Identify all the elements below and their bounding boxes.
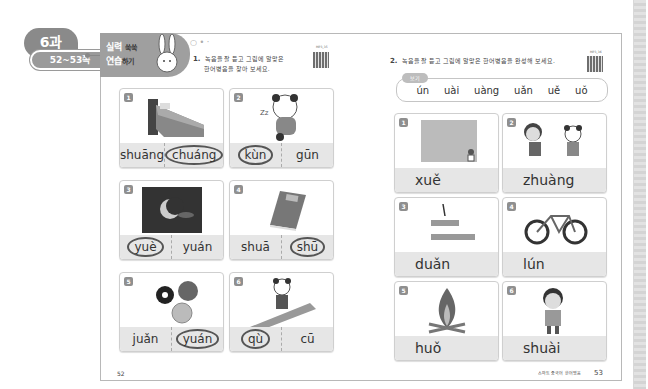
item-number: 4 (234, 185, 243, 194)
exercise1-number: 1. (193, 55, 201, 63)
fire-picture (395, 282, 498, 338)
exercise1-instruction: 1.녹음을 잘 듣고 그림에 알맞은 한어병음을 찾아 보세요. (193, 54, 284, 74)
exercise1-card-6: 6 qù cū (229, 272, 334, 352)
item-number: 5 (124, 277, 133, 286)
option-a-circled[interactable]: kùn (230, 143, 281, 167)
exercise2-card-1: 1 xuě (394, 113, 499, 193)
option-text: juǎn (133, 332, 159, 346)
exercise2-card-6: 6 shuài (502, 281, 607, 361)
example-option: uě (548, 85, 561, 96)
example-label: 보기 (402, 73, 428, 83)
qr-label-2: MP3_36 (590, 50, 602, 54)
bump-picture (503, 114, 606, 170)
example-option: uǒ (575, 85, 587, 96)
book-binding (633, 0, 646, 389)
exercise2-number: 2. (390, 57, 398, 65)
option-text: shū (290, 237, 325, 257)
qr-code-icon[interactable] (313, 52, 329, 68)
exercise2-card-4: 4 lún (502, 197, 607, 277)
bed-picture (120, 89, 223, 145)
example-box: ún uài uàng uǎn uě uǒ (396, 78, 608, 102)
lesson-pages: 52~53쪽 (30, 50, 110, 70)
answer-text: huǒ (415, 340, 441, 356)
section-title-line2: 연습 (106, 56, 122, 66)
answer-text: shuài (523, 340, 561, 356)
option-a-circled[interactable]: qù (230, 327, 281, 351)
answer-field[interactable]: lún (503, 252, 606, 276)
item-number: 1 (124, 93, 133, 102)
exercise1-card-1: 1 shuāng chuáng (119, 88, 224, 168)
left-page-number: 52 (117, 370, 125, 377)
answer-field[interactable]: xuě (395, 168, 498, 192)
example-option: uǎn (514, 85, 533, 96)
option-text: yuè (127, 237, 163, 257)
qr-code-icon[interactable] (587, 56, 603, 72)
exercise1-card-2: Zz 2 kùn gūn (229, 88, 334, 168)
answer-field[interactable]: zhuàng (503, 168, 606, 192)
bicycle-picture (503, 198, 606, 254)
item-number: 6 (234, 277, 243, 286)
answer-text: lún (523, 256, 545, 272)
option-b[interactable]: yuán (171, 235, 223, 259)
option-text: kùn (238, 145, 274, 165)
svg-text:Zz: Zz (260, 109, 269, 117)
exercise2-card-5: 5 huǒ (394, 281, 499, 361)
decorative-dots: ○ • · (190, 38, 209, 47)
short-pencil-picture (395, 198, 498, 254)
item-number: 2 (234, 93, 243, 102)
exercise1-instruction-line2: 한어병음을 찾아 보세요. (193, 64, 284, 74)
exercise1-card-4: 4 shuā shū (229, 180, 334, 260)
answer-field[interactable]: shuài (503, 336, 606, 360)
option-a[interactable]: shuā (230, 235, 281, 259)
item-number: 3 (124, 185, 133, 194)
exercise2-card-3: 3 duǎn (394, 197, 499, 277)
lesson-badge: 6과 52~53쪽 (24, 28, 112, 74)
right-page-number: 53 (594, 369, 603, 377)
option-text: cū (300, 332, 314, 346)
moon-night-picture (120, 181, 223, 237)
option-b-circled[interactable]: yuán (171, 327, 223, 351)
rabbit-mascot-icon (150, 34, 184, 74)
item-number: 6 (507, 286, 516, 295)
exercise2-instruction: 2.녹음을 잘 듣고 그림에 알맞은 한어병음을 완성해 보세요. (390, 56, 555, 66)
option-text: qù (241, 329, 270, 349)
answer-field[interactable]: duǎn (395, 252, 498, 276)
exercise2-card-2: 2 zhuàng (502, 113, 607, 193)
option-b[interactable]: cū (281, 327, 333, 351)
option-b-circled[interactable]: shū (281, 235, 333, 259)
example-option: uài (444, 85, 459, 96)
answer-text: zhuàng (523, 172, 574, 188)
option-text: shuā (241, 240, 270, 254)
example-option: uàng (474, 85, 499, 96)
section-title-line2-small: 하기 (122, 58, 134, 66)
option-a[interactable]: shuāng (120, 143, 164, 167)
option-a[interactable]: juǎn (120, 327, 171, 351)
option-text: yuán (183, 240, 213, 254)
answer-field[interactable]: huǒ (395, 336, 498, 360)
round-objects-picture (120, 273, 223, 329)
item-number: 1 (399, 118, 408, 127)
example-option: ún (416, 85, 429, 96)
book-picture (230, 181, 333, 237)
sleepy-panda-picture: Zz (230, 89, 333, 145)
answer-text: xuě (415, 172, 441, 188)
exercise1-card-5: 5 juǎn yuán (119, 272, 224, 352)
option-b[interactable]: gūn (281, 143, 333, 167)
section-title-line1: 실력 (106, 42, 122, 52)
exercise2-instruction-text: 녹음을 잘 듣고 그림에 알맞은 한어병음을 완성해 보세요. (402, 57, 555, 64)
panda-walking-picture (230, 273, 333, 329)
option-a-circled[interactable]: yuè (120, 235, 171, 259)
qr-label-1: MP3_35 (316, 45, 328, 49)
item-number: 4 (507, 202, 516, 211)
snow-picture (395, 114, 498, 170)
option-text: gūn (296, 148, 319, 162)
item-number: 2 (507, 118, 516, 127)
exercise1-instruction-line1: 녹음을 잘 듣고 그림에 알맞은 (205, 55, 285, 62)
item-number: 3 (399, 202, 408, 211)
option-b-circled[interactable]: chuáng (164, 143, 223, 167)
handsome-boy-picture (503, 282, 606, 338)
item-number: 5 (399, 286, 408, 295)
option-text: shuāng (120, 148, 164, 162)
section-title-line1-small: 쑥쑥 (125, 44, 137, 52)
right-page-caption: 스마트 중국어 한어병음 (538, 370, 581, 376)
